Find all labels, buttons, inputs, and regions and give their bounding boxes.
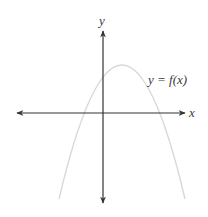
curve-label: y = f(x) [148,73,187,86]
function-graph: y x y = f(x) [0,0,208,217]
y-axis-label: y [99,14,105,27]
graph-canvas [0,0,208,217]
x-axis-label: x [189,106,195,119]
